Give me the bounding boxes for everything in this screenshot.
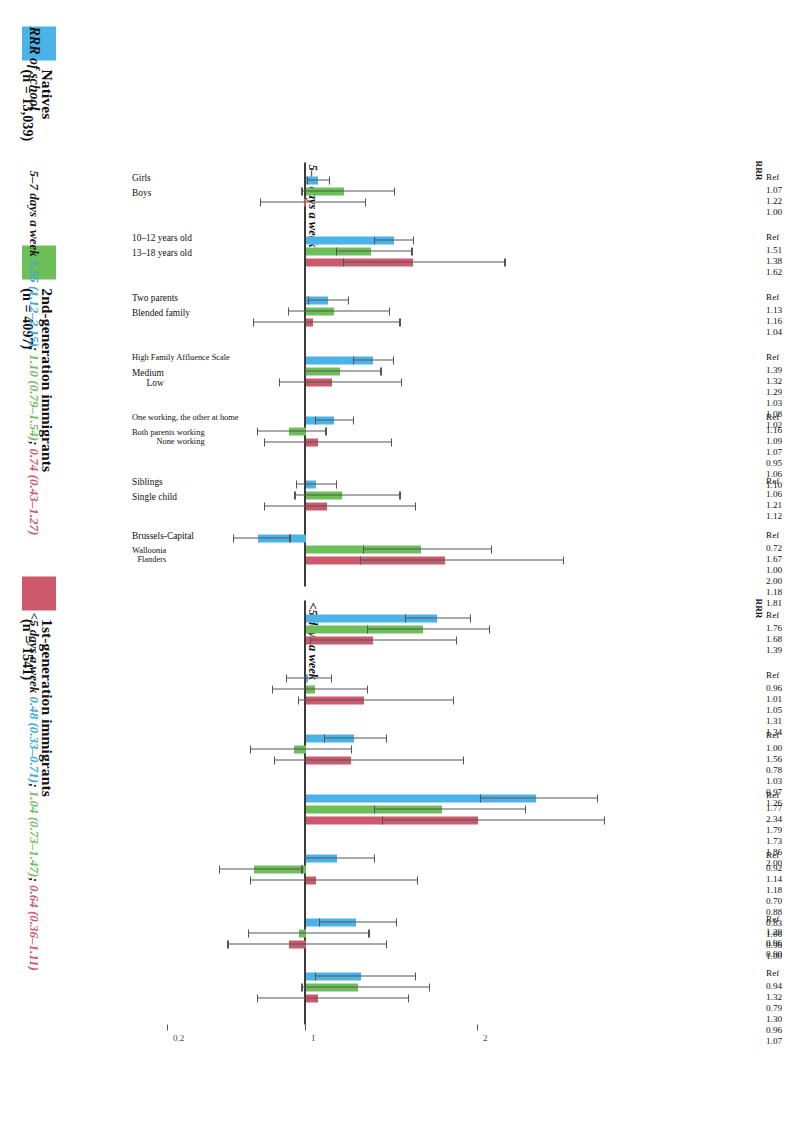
category-reference-label: 10–12 years old (132, 233, 192, 243)
caption-period-label: <5 days a week (27, 612, 42, 693)
axis-tick-label: 0.2 (173, 1032, 184, 1042)
category-reference-label: Brussels-Capital (132, 531, 194, 541)
category-reference-label: Siblings (132, 477, 163, 487)
caption-value-gen1: 0.74 (0.43–1.27) (27, 448, 42, 535)
rotated-figure-canvas: Natives (n = 13,039) 2nd-generation immi… (0, 0, 786, 1147)
category-reference-label: One working, the other at home (132, 413, 239, 422)
caption-line-5-7: 5–7 days a week 1.55 (1.12–2.15); 1.10 (… (26, 170, 42, 535)
caption-period-label: 5–7 days a week (27, 170, 42, 256)
caption-title: RRR of school (26, 26, 42, 110)
category-label: Boys (132, 188, 151, 198)
caption-line-under-5: <5 days a week 0.48 (0.33–0.71); 1.04 (0… (26, 612, 42, 970)
category-label: MediumLow (132, 368, 164, 388)
category-label: 13–18 years old (132, 248, 192, 258)
caption-value-gen2: 1.04 (0.73–1.47) (27, 790, 42, 877)
category-label: Both parents workingNone working (132, 428, 205, 446)
category-label: Single child (132, 492, 177, 502)
category-label: Blended family (132, 308, 190, 318)
caption-value-natives: 1.55 (1.12–2.15) (27, 260, 42, 347)
caption-value-gen2: 1.10 (0.79–1.54) (27, 354, 42, 441)
category-reference-label: Two parents (132, 293, 178, 303)
category-label: WallooniaFlanders (132, 546, 166, 564)
figure-root: Natives (n = 13,039) 2nd-generation immi… (0, 0, 786, 1147)
category-reference-label: High Family Affluence Scale (132, 353, 230, 362)
caption-value-natives: 0.48 (0.33–0.71) (27, 696, 42, 783)
axis-tick-label: 1 (311, 1032, 316, 1042)
axis-tick-label: 2 (483, 1032, 488, 1042)
caption-value-gen1: 0.64 (0.36–1.11) (27, 884, 42, 970)
category-reference-label: Girls (132, 173, 151, 183)
category-axis-labels: GirlsBoys10–12 years old13–18 years oldT… (0, 150, 786, 1030)
rrr-value-label: 1.07 (766, 1036, 782, 1046)
